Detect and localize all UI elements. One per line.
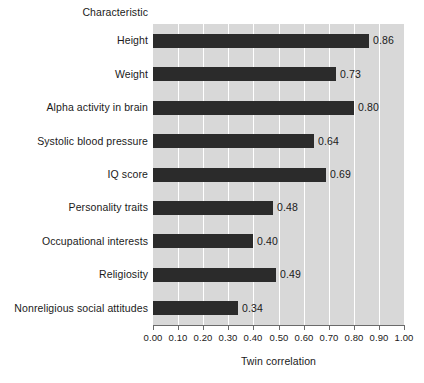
- category-label: Personality traits: [0, 201, 148, 214]
- x-axis-tick: [203, 326, 204, 330]
- bar-value-label: 0.86: [373, 34, 394, 47]
- bar: [153, 234, 253, 248]
- category-label: Occupational interests: [0, 235, 148, 248]
- bar: [153, 101, 354, 115]
- x-axis-tick: [178, 326, 179, 330]
- x-axis-tick: [404, 326, 405, 330]
- bar: [153, 301, 238, 315]
- bar: [153, 67, 336, 81]
- x-axis-tick: [153, 326, 154, 330]
- bar: [153, 34, 369, 48]
- bar-value-label: 0.40: [257, 235, 278, 248]
- bar: [153, 134, 314, 148]
- twin-correlation-bar-chart: Characteristic Twin correlation Height0.…: [0, 0, 424, 383]
- bar-value-label: 0.48: [277, 201, 298, 214]
- category-axis-title: Characteristic: [0, 6, 148, 18]
- bar-value-label: 0.69: [330, 168, 351, 181]
- plot-area: [153, 24, 404, 325]
- gridline: [404, 24, 405, 325]
- bar-value-label: 0.34: [242, 302, 263, 315]
- x-axis-tick: [279, 326, 280, 330]
- category-label: Alpha activity in brain: [0, 101, 148, 114]
- x-axis-tick: [329, 326, 330, 330]
- bar-value-label: 0.80: [358, 101, 379, 114]
- bar-value-label: 0.73: [340, 68, 361, 81]
- category-label: Height: [0, 34, 148, 47]
- bar: [153, 201, 273, 215]
- category-label: Nonreligious social attitudes: [0, 302, 148, 315]
- x-axis-tick-label: 1.00: [384, 332, 424, 343]
- x-axis-tick: [228, 326, 229, 330]
- x-axis-tick: [354, 326, 355, 330]
- bar: [153, 268, 276, 282]
- category-label: Systolic blood pressure: [0, 135, 148, 148]
- category-label: Religiosity: [0, 268, 148, 281]
- category-label: IQ score: [0, 168, 148, 181]
- category-label: Weight: [0, 68, 148, 81]
- bar-value-label: 0.49: [280, 268, 301, 281]
- x-axis-title: Twin correlation: [153, 355, 404, 367]
- bar: [153, 168, 326, 182]
- gridline: [379, 24, 380, 325]
- x-axis-tick: [379, 326, 380, 330]
- x-axis-tick: [304, 326, 305, 330]
- x-axis-tick: [253, 326, 254, 330]
- bar-value-label: 0.64: [318, 135, 339, 148]
